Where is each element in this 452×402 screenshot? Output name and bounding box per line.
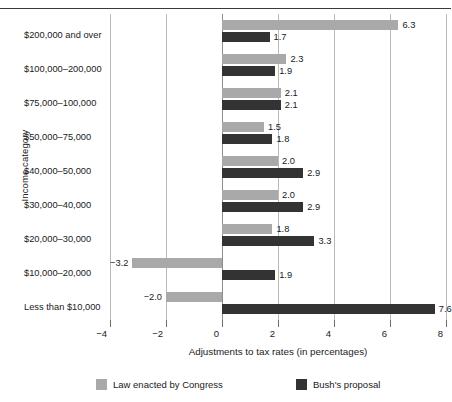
bar-value-label: 7.6	[439, 304, 452, 314]
bar-0-0	[222, 20, 398, 30]
legend-item-0: Law enacted by Congress	[96, 379, 223, 390]
legend-label: Bush's proposal	[313, 379, 380, 390]
bar-value-label: 2.9	[307, 168, 320, 178]
bar-value-label: 2.1	[285, 88, 298, 98]
category-label: $20,000–30,000	[24, 234, 108, 244]
bar-value-label: 2.3	[290, 54, 303, 64]
bar-value-label: −3.2	[110, 258, 128, 268]
bar-value-label: 1.8	[276, 224, 289, 234]
x-tick-mark	[166, 320, 167, 327]
legend-item-1: Bush's proposal	[296, 379, 380, 390]
category-label: $40,000–50,000	[24, 166, 108, 176]
bar-0-8	[166, 292, 222, 302]
bar-value-label: 2.0	[282, 156, 295, 166]
x-tick-mark	[110, 320, 111, 327]
category-label: $30,000–40,000	[24, 200, 108, 210]
bar-value-label: 1.9	[279, 66, 292, 76]
bar-value-label: −2.0	[144, 292, 162, 302]
bar-value-label: 1.7	[274, 32, 287, 42]
bar-1-8	[222, 304, 435, 314]
bar-1-0	[222, 32, 270, 42]
bar-0-3	[222, 122, 264, 132]
bar-value-label: 2.9	[307, 202, 320, 212]
bar-value-label: 1.8	[276, 134, 289, 144]
bar-0-4	[222, 156, 278, 166]
bar-1-1	[222, 66, 275, 76]
x-tick-label: −4	[96, 328, 110, 339]
category-label: $75,000–100,000	[24, 98, 108, 108]
x-tick-mark	[390, 320, 391, 327]
bar-1-3	[222, 134, 272, 144]
top-divider-rule	[0, 8, 451, 9]
bar-0-6	[222, 224, 272, 234]
bar-value-label: 1.5	[268, 122, 281, 132]
x-tick-label: 0	[214, 328, 222, 339]
legend-swatch-icon	[296, 379, 307, 390]
x-axis-title: Adjustments to tax rates (in percentages…	[110, 346, 446, 357]
bar-0-2	[222, 88, 281, 98]
category-label: $10,000–20,000	[24, 268, 108, 278]
chart-legend: Law enacted by CongressBush's proposal	[96, 379, 426, 393]
plot-area: 6.32.32.11.52.02.01.8−3.2−2.01.71.92.11.…	[110, 14, 446, 320]
legend-swatch-icon	[96, 379, 107, 390]
bar-value-label: 2.0	[282, 190, 295, 200]
gridline-4	[334, 14, 335, 320]
bar-value-label: 1.9	[279, 270, 292, 280]
legend-label: Law enacted by Congress	[113, 379, 223, 390]
category-label: $50,000–75,000	[24, 132, 108, 142]
bar-1-6	[222, 236, 314, 246]
bar-1-2	[222, 100, 281, 110]
bar-0-1	[222, 54, 286, 64]
bar-1-4	[222, 168, 303, 178]
bar-0-5	[222, 190, 278, 200]
x-tick-mark	[222, 320, 223, 327]
category-label: $200,000 and over	[24, 30, 108, 40]
category-label: Less than $10,000	[24, 302, 108, 312]
bar-value-label: 6.3	[402, 20, 415, 30]
category-label: $100,000–200,000	[24, 64, 108, 74]
x-tick-label: 4	[326, 328, 334, 339]
x-tick-label: 6	[382, 328, 390, 339]
gridline--4	[110, 14, 111, 320]
category-axis-labels: $200,000 and over$100,000–200,000$75,000…	[24, 16, 108, 320]
x-tick-mark	[334, 320, 335, 327]
gridline-6	[390, 14, 391, 320]
bar-1-5	[222, 202, 303, 212]
bar-value-label: 2.1	[285, 100, 298, 110]
bar-0-7	[132, 258, 222, 268]
x-tick-label: 8	[438, 328, 446, 339]
x-tick-label: 2	[270, 328, 278, 339]
x-tick-label: −2	[152, 328, 166, 339]
gridline--2	[166, 14, 167, 320]
x-tick-mark	[446, 320, 447, 327]
bar-1-7	[222, 270, 275, 280]
gridline-8	[446, 14, 447, 320]
x-axis: −4−202468	[110, 320, 446, 342]
bar-value-label: 3.3	[318, 236, 331, 246]
x-tick-mark	[278, 320, 279, 327]
